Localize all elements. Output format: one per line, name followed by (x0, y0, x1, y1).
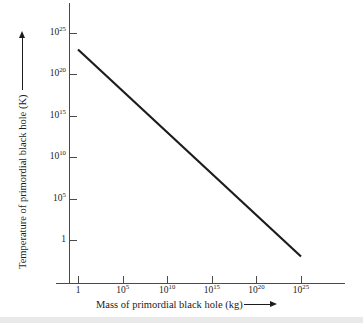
x-axis-title-text: Mass of primordial black hole (kg) (96, 299, 243, 310)
x-axis-title: Mass of primordial black hole (kg) (96, 299, 278, 310)
y-axis-title: Temperature of primordial black hole (K) (14, 19, 30, 269)
data-series-line (78, 50, 301, 257)
page-bottom-band (0, 317, 363, 323)
x-tick-label: 1015 (192, 286, 232, 296)
y-tick-mark (70, 199, 77, 200)
y-tick-mark (70, 74, 77, 75)
y-tick-mark (70, 33, 77, 34)
arrow-up-icon (18, 31, 27, 91)
y-tick-mark (70, 240, 77, 241)
y-axis-line (69, 3, 70, 284)
x-tick-label: 1020 (236, 286, 276, 296)
x-tick-label: 1010 (147, 286, 187, 296)
x-tick-label: 1025 (281, 286, 321, 296)
x-tick-mark (78, 276, 79, 283)
x-tick-label: 1 (58, 286, 98, 296)
arrow-right-icon (244, 300, 278, 309)
y-axis-title-text: Temperature of primordial black hole (K) (17, 95, 28, 270)
y-tick-mark (70, 116, 77, 117)
x-tick-mark (123, 276, 124, 283)
x-tick-label: 105 (103, 286, 143, 296)
chart-figure: 10251020101510101051 1105101010151020102… (0, 0, 363, 323)
y-tick-mark (70, 157, 77, 158)
